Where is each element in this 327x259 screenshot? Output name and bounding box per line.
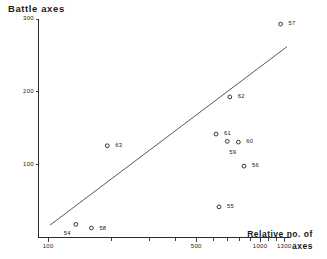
data-point-60[interactable]	[236, 140, 240, 144]
x-axis-title-line2: axes	[237, 240, 323, 252]
y-tick-label-300: 300	[6, 15, 34, 21]
data-point-63[interactable]	[105, 144, 109, 148]
data-point-markers	[74, 22, 283, 230]
data-point-55[interactable]	[217, 205, 221, 209]
data-point-label-58: 58	[99, 225, 106, 231]
data-point-54[interactable]	[74, 222, 78, 226]
data-point-61[interactable]	[214, 132, 218, 136]
x-tick-label-100: 100	[34, 243, 62, 249]
data-point-56[interactable]	[242, 164, 246, 168]
y-tick-label-200: 200	[6, 88, 34, 94]
data-point-62[interactable]	[228, 95, 232, 99]
plot-canvas	[0, 0, 327, 259]
data-point-label-56: 56	[252, 162, 259, 168]
scatter-plot-figure: Battle axes 300200100 10050010001300 576…	[0, 0, 327, 259]
axes-group	[38, 19, 291, 238]
data-point-label-62: 62	[238, 93, 245, 99]
data-point-label-55: 55	[227, 203, 234, 209]
data-point-label-59: 59	[229, 149, 236, 155]
data-point-57[interactable]	[279, 22, 283, 26]
fitted-regression-line	[50, 47, 287, 225]
data-point-label-61: 61	[224, 130, 231, 136]
data-point-label-57: 57	[289, 20, 296, 26]
y-tick-label-100: 100	[6, 161, 34, 167]
data-point-label-54: 54	[64, 230, 71, 236]
data-point-label-63: 63	[115, 142, 122, 148]
data-point-59[interactable]	[225, 139, 229, 143]
data-point-58[interactable]	[90, 226, 94, 230]
x-tick-label-500: 500	[182, 243, 210, 249]
x-axis-title: Relative no. of axes	[237, 228, 323, 252]
x-axis-title-line1: Relative no. of	[247, 229, 313, 239]
data-point-label-60: 60	[246, 138, 253, 144]
